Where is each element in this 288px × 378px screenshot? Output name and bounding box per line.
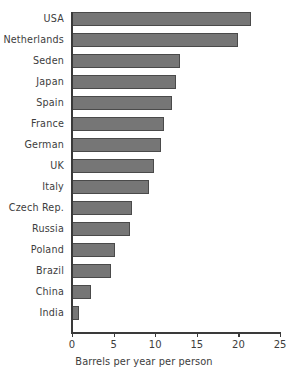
bar (72, 138, 161, 152)
x-axis-tick-label: 0 (57, 339, 87, 351)
x-axis-tick (280, 332, 281, 337)
bar (72, 12, 251, 26)
category-label: Russia (0, 224, 64, 234)
bar (72, 201, 132, 215)
bar (72, 306, 79, 320)
x-axis-tick-label: 10 (140, 339, 170, 351)
bar (72, 285, 91, 299)
x-axis-tick (238, 332, 239, 337)
category-label: China (0, 287, 64, 297)
x-axis-tick (114, 332, 115, 337)
x-axis-tick-label: 20 (223, 339, 253, 351)
category-axis: USANetherlandsSedenJapanSpainFranceGerma… (0, 12, 68, 330)
bar (72, 222, 130, 236)
category-label: Italy (0, 182, 64, 192)
category-label: Brazil (0, 266, 64, 276)
x-axis-tick (155, 332, 156, 337)
bar (72, 33, 238, 47)
plot-area (72, 12, 280, 332)
bar (72, 264, 111, 278)
bar (72, 54, 180, 68)
category-label: France (0, 119, 64, 129)
x-axis-tick-label: 5 (99, 339, 129, 351)
category-label: German (0, 140, 64, 150)
bar-chart: USANetherlandsSedenJapanSpainFranceGerma… (0, 0, 288, 378)
bar (72, 159, 154, 173)
category-label: India (0, 308, 64, 318)
x-axis-tick-label: 15 (182, 339, 212, 351)
category-label: Seden (0, 56, 64, 66)
x-axis-tick-label: 25 (265, 339, 288, 351)
x-axis-tick (72, 332, 73, 337)
category-label: Spain (0, 98, 64, 108)
category-label: Netherlands (0, 35, 64, 45)
category-label: Poland (0, 245, 64, 255)
category-label: Japan (0, 77, 64, 87)
category-label: UK (0, 161, 64, 171)
bar (72, 96, 172, 110)
x-axis-title: Barrels per year per person (0, 356, 288, 368)
bar (72, 117, 164, 131)
category-label: USA (0, 14, 64, 24)
bar (72, 75, 176, 89)
x-axis-tick (197, 332, 198, 337)
x-axis-line (71, 332, 281, 334)
category-label: Czech Rep. (0, 203, 64, 213)
bar (72, 180, 149, 194)
y-axis-line (71, 12, 73, 332)
bar (72, 243, 115, 257)
